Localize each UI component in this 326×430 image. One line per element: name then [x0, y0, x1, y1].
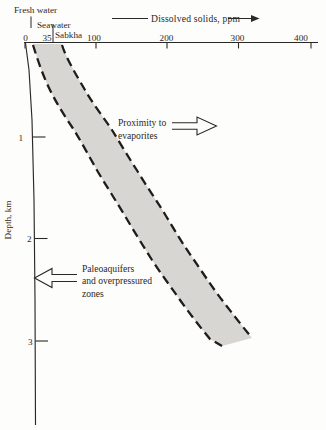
right-hollow-arrow-icon	[172, 117, 217, 135]
x-tick-label-300: 300	[231, 33, 245, 43]
paleo-annotation-line3: zones	[82, 288, 104, 299]
x-axis-title: Dissolved solids, ppm	[151, 13, 241, 24]
title-arrow-head-icon	[251, 15, 260, 22]
proximity-annotation-line1: Proximity to	[118, 117, 166, 128]
x-tick-label-35: 35	[42, 33, 52, 43]
y-tick-label-1: 1	[18, 133, 23, 143]
paleo-annotation-line1: Paleoaquifers	[82, 263, 134, 274]
x-tick-label-200: 200	[160, 33, 174, 43]
sabkha-label: Sabkha	[55, 30, 82, 40]
fresh-water-label: Fresh water	[14, 5, 57, 15]
salinity-band-area	[33, 44, 252, 346]
figure-dissolved-solids-vs-depth: 0 35 100 200 300 400 1 2 3 Depth, km Fre…	[0, 0, 326, 430]
left-hollow-arrow-icon	[35, 269, 78, 288]
x-tick-label-400: 400	[294, 33, 308, 43]
paleo-annotation-line2: and overpressured	[82, 275, 152, 286]
x-tick-label-100: 100	[87, 33, 101, 43]
x-tick-label-0: 0	[23, 33, 28, 43]
y-axis-title: Depth, km	[3, 201, 13, 240]
y-tick-label-3: 3	[28, 337, 33, 347]
y-tick-label-2: 2	[27, 234, 32, 244]
proximity-annotation-line2: evaporites	[118, 130, 158, 141]
seawater-label: Seawater	[37, 20, 71, 30]
figure-canvas: 0 35 100 200 300 400 1 2 3 Depth, km Fre…	[0, 0, 326, 430]
